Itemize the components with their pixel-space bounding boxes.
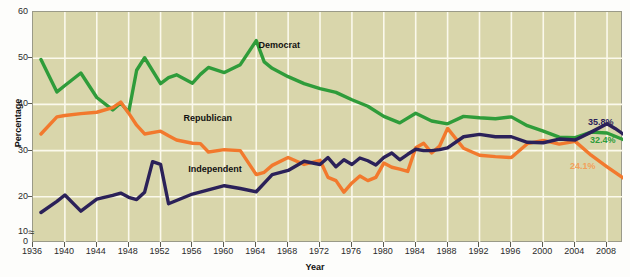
x-axis-tick-labels: 1936194019441948195219561960196419681972… (0, 246, 630, 260)
end-value-label-independent: 35.8% (588, 117, 614, 127)
y-tick-label: 10 (6, 227, 28, 236)
plot-area (32, 11, 622, 242)
x-tick-label: 2008 (586, 246, 626, 256)
y-tick-label: 0 (6, 237, 28, 246)
series-label-democrat: Democrat (258, 40, 300, 50)
y-tick-label: 50 (6, 53, 28, 62)
y-tick-label: 60 (6, 7, 28, 16)
end-value-label-republican: 24.1% (570, 161, 596, 171)
chart-figure: 6050403020100 Percentage DemocratRepubli… (0, 0, 630, 277)
series-label-independent: Independent (188, 164, 242, 174)
y-axis-title: Percentage (13, 88, 23, 158)
axis-break-icon: ≈ (28, 226, 34, 238)
y-tick-label: 20 (6, 192, 28, 201)
chart-svg (33, 12, 623, 243)
end-value-label-democrat: 32.4% (590, 135, 616, 145)
x-axis-title: Year (0, 262, 630, 272)
series-label-republican: Republican (183, 113, 232, 123)
